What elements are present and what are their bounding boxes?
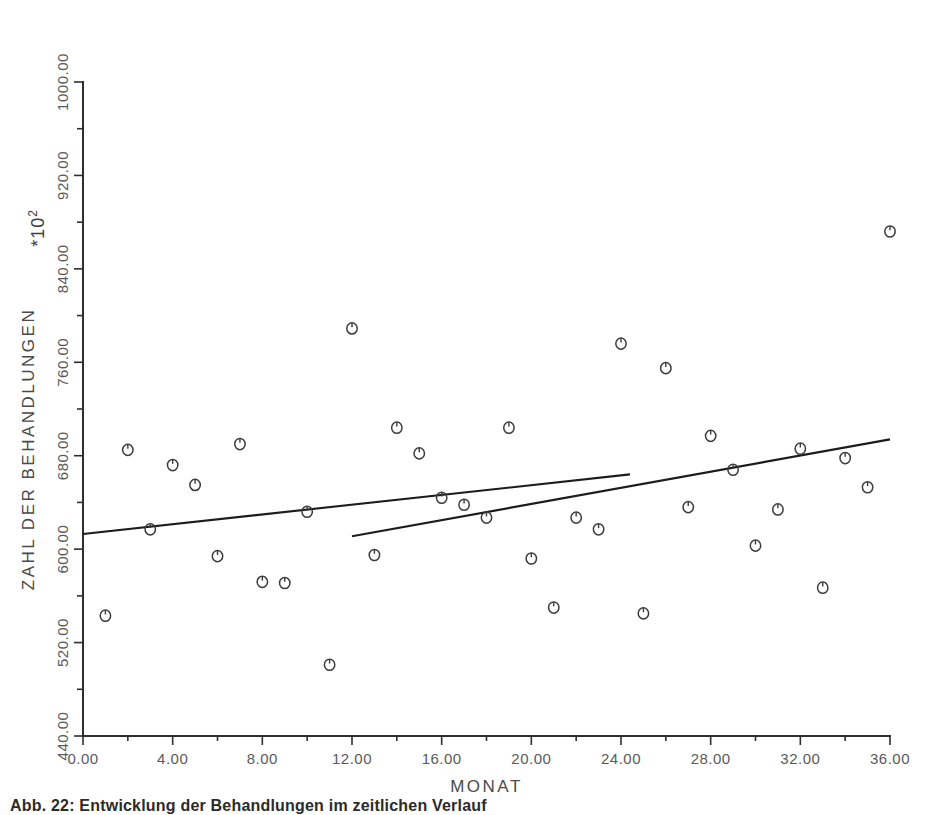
y-tick-label: 920.00 <box>54 151 71 200</box>
data-point <box>436 492 446 503</box>
data-point <box>885 226 895 237</box>
data-point <box>167 459 177 470</box>
data-point <box>750 540 760 551</box>
data-point <box>638 608 648 619</box>
data-point <box>616 338 626 349</box>
data-point <box>728 464 738 475</box>
trend-line-full <box>83 474 630 534</box>
data-point <box>818 582 828 593</box>
axes <box>83 82 890 736</box>
y-tick-label: 520.00 <box>54 618 71 667</box>
trend-lines <box>83 439 890 536</box>
x-tick-label: 4.00 <box>157 750 188 767</box>
data-point <box>683 502 693 513</box>
data-point <box>100 610 110 621</box>
data-point <box>302 506 312 517</box>
data-point <box>773 504 783 515</box>
data-point <box>123 444 133 455</box>
data-point <box>459 499 469 510</box>
y-axis-scale-note: *102 <box>26 209 48 247</box>
axis-ticks <box>74 82 890 745</box>
data-point <box>212 551 222 562</box>
data-points <box>100 226 895 670</box>
data-point <box>145 524 155 535</box>
y-tick-labels: 440.00520.00600.00680.00760.00840.00920.… <box>54 53 71 760</box>
x-tick-label: 20.00 <box>511 750 551 767</box>
y-tick-label: 1000.00 <box>54 53 71 111</box>
data-point <box>705 430 715 441</box>
data-point <box>347 323 357 334</box>
data-point <box>369 549 379 560</box>
scale-note-base: *10 <box>28 217 48 247</box>
y-tick-label: 600.00 <box>54 525 71 574</box>
x-tick-label: 28.00 <box>691 750 731 767</box>
data-point <box>481 512 491 523</box>
data-point <box>504 422 514 433</box>
data-point <box>571 512 581 523</box>
x-tick-label: 36.00 <box>870 750 910 767</box>
data-point <box>593 524 603 535</box>
trend-line-partial <box>352 439 890 536</box>
data-point <box>840 452 850 463</box>
x-tick-label: 32.00 <box>780 750 820 767</box>
scale-note-exponent: 2 <box>26 209 40 217</box>
data-point <box>280 577 290 588</box>
x-tick-label: 12.00 <box>332 750 372 767</box>
figure-caption: Abb. 22: Entwicklung der Behandlungen im… <box>10 797 487 815</box>
data-point <box>862 482 872 493</box>
data-point <box>190 479 200 490</box>
data-point <box>235 438 245 449</box>
y-tick-label: 760.00 <box>54 338 71 387</box>
data-point <box>549 602 559 613</box>
y-tick-label: 680.00 <box>54 431 71 480</box>
axis-frame <box>83 82 890 736</box>
data-point <box>257 576 267 587</box>
data-point <box>414 448 424 459</box>
x-tick-label: 8.00 <box>247 750 278 767</box>
data-point <box>324 659 334 670</box>
y-tick-label: 440.00 <box>54 712 71 761</box>
x-axis-title: MONAT <box>450 777 523 796</box>
x-tick-label: 0.00 <box>67 750 98 767</box>
x-tick-label: 24.00 <box>601 750 641 767</box>
data-point <box>661 363 671 374</box>
data-point <box>526 553 536 564</box>
y-tick-label: 840.00 <box>54 244 71 293</box>
x-tick-label: 16.00 <box>422 750 462 767</box>
x-tick-labels: 0.004.008.0012.0016.0020.0024.0028.0032.… <box>67 750 910 767</box>
data-point <box>795 443 805 454</box>
y-axis-title: ZAHL DER BEHANDLUNGEN <box>19 308 38 590</box>
axis-titles: MONATZAHL DER BEHANDLUNGEN*102 <box>19 209 523 796</box>
data-point <box>392 422 402 433</box>
